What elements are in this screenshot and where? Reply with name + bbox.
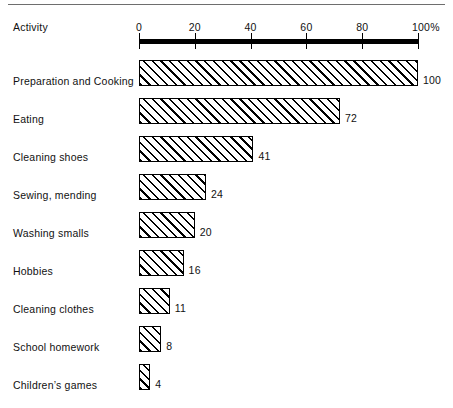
bar-category-label: Children’s games: [13, 379, 97, 391]
bar-category-label: Preparation and Cooking: [13, 75, 134, 87]
bar-row: Preparation and Cooking 100: [0, 56, 453, 94]
bar-category-label: Sewing, mending: [13, 189, 97, 201]
bar-chart: Activity 0 20 40 60 80 100% Preparation …: [0, 0, 453, 408]
bar-row: Cleaning clothes 11: [0, 284, 453, 322]
bar-row: Cleaning shoes 41: [0, 132, 453, 170]
bar-value-label: 20: [200, 226, 212, 238]
bar-rect: [139, 60, 418, 86]
bar-rect: [139, 364, 150, 390]
bar-row: Eating 72: [0, 94, 453, 132]
bar-value-label: 4: [155, 378, 161, 390]
bar-rect: [139, 288, 170, 314]
bar-value-label: 41: [258, 150, 270, 162]
bar-rect: [139, 212, 195, 238]
bar-row: Children’s games 4: [0, 360, 453, 398]
bar-category-label: Washing smalls: [13, 227, 89, 239]
bar-row: Washing smalls 20: [0, 208, 453, 246]
bar-rect: [139, 326, 161, 352]
bar-group: Preparation and Cooking 100 Eating 72 Cl…: [0, 0, 453, 408]
bar-rect: [139, 98, 340, 124]
bar-rect: [139, 174, 206, 200]
bar-rect: [139, 136, 253, 162]
bar-value-label: 11: [175, 302, 186, 314]
bar-category-label: School homework: [13, 341, 99, 353]
bar-rect: [139, 250, 184, 276]
bar-value-label: 24: [211, 188, 223, 200]
bar-value-label: 16: [189, 264, 201, 276]
bar-value-label: 72: [345, 112, 357, 124]
bar-category-label: Cleaning shoes: [13, 151, 88, 163]
bar-row: Hobbies 16: [0, 246, 453, 284]
bar-category-label: Hobbies: [13, 265, 53, 277]
bar-value-label: 100: [423, 74, 441, 86]
bar-row: Sewing, mending 24: [0, 170, 453, 208]
bar-value-label: 8: [166, 340, 172, 352]
bar-row: School homework 8: [0, 322, 453, 360]
bar-category-label: Eating: [13, 113, 44, 125]
bar-category-label: Cleaning clothes: [13, 303, 94, 315]
